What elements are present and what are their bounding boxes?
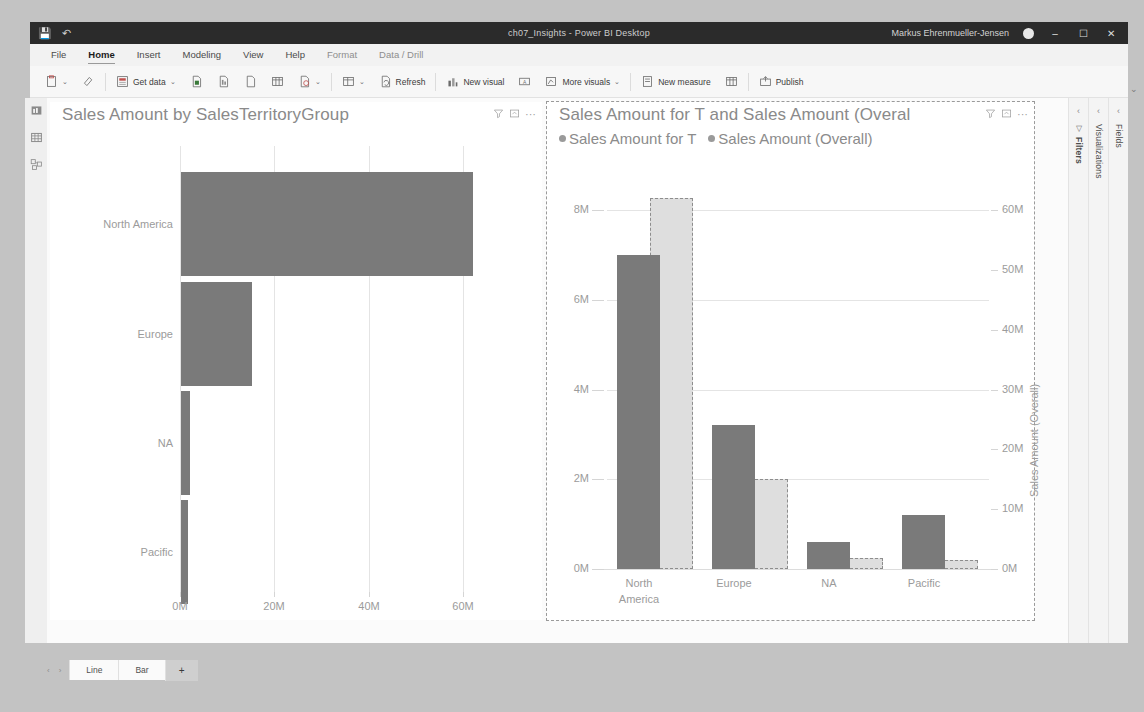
axis-tick	[991, 330, 998, 331]
chevron-down-icon[interactable]: ⌄	[614, 78, 620, 86]
axis-tick	[991, 569, 998, 570]
ribbon-tabs: File Home Insert Modeling View Help Form…	[30, 44, 1128, 66]
tab-view[interactable]: View	[232, 44, 274, 66]
filter-icon: ▽	[1076, 124, 1082, 133]
get-data-button[interactable]: Get data ⌄	[109, 69, 183, 95]
x-axis-line	[603, 569, 993, 570]
bar-north-america[interactable]	[181, 172, 473, 276]
text-box-button[interactable]: A	[511, 69, 538, 95]
recent-sources-button[interactable]: ⌄	[291, 69, 328, 95]
visual-sales-amount-combo[interactable]: Sales Amount for T and Sales Amount (Ove…	[547, 102, 1034, 620]
report-view-icon[interactable]	[30, 104, 43, 117]
axis-tick	[180, 592, 181, 597]
bar-territory-north-america[interactable]	[617, 255, 660, 569]
x-tick-label: 40M	[349, 600, 389, 612]
visual-sales-amount-by-territory[interactable]: Sales Amount by SalesTerritoryGroup ···	[50, 102, 542, 620]
ribbon-divider	[748, 73, 749, 91]
format-painter-button[interactable]	[75, 69, 102, 95]
right-axis-tick-label: 40M	[1002, 323, 1023, 335]
panel-visualizations[interactable]: ‹ Visualizations	[1088, 98, 1108, 643]
panel-fields[interactable]: ‹ Fields	[1108, 98, 1128, 643]
new-visual-icon	[446, 75, 459, 88]
page-tab-line[interactable]: Line	[69, 660, 118, 680]
excel-source-button[interactable]	[183, 69, 210, 95]
tab-help[interactable]: Help	[274, 44, 316, 66]
left-axis-tick-label: 2M	[549, 472, 589, 484]
dataset-icon	[217, 75, 230, 88]
panel-filters[interactable]: ‹ ▽ Filters	[1068, 98, 1088, 643]
category-label: North	[599, 577, 679, 589]
right-axis-tick-label: 0M	[1002, 562, 1017, 574]
axis-tick	[991, 270, 998, 271]
bar-na[interactable]	[181, 391, 190, 495]
excel-icon	[190, 75, 203, 88]
left-axis-tick-label: 6M	[549, 293, 589, 305]
refresh-button[interactable]: Refresh	[372, 69, 433, 95]
bar-territory-pacific[interactable]	[902, 515, 945, 569]
transform-data-button[interactable]: ⌄	[335, 69, 372, 95]
enter-data-button[interactable]	[264, 69, 291, 95]
tab-format[interactable]: Format	[316, 44, 368, 66]
prev-page-button[interactable]: ‹	[47, 666, 50, 675]
bar-territory-europe[interactable]	[712, 425, 755, 569]
category-label: Pacific	[60, 546, 173, 558]
right-sidebar: ‹ ▽ Filters ‹ Visualizations ‹ Fields	[1068, 98, 1128, 643]
category-label: NA	[789, 577, 869, 589]
sql-server-button[interactable]	[237, 69, 264, 95]
page-tab-bar: ‹ › Line Bar +	[25, 655, 1128, 685]
left-axis-tick-label: 0M	[549, 562, 589, 574]
file-icon	[244, 75, 257, 88]
paste-button[interactable]: ⌄	[38, 69, 75, 95]
axis-tick	[991, 210, 998, 211]
chevron-down-icon[interactable]: ⌄	[170, 78, 176, 86]
right-axis-tick-label: 30M	[1002, 383, 1023, 395]
chevron-left-icon[interactable]: ‹	[1117, 106, 1120, 116]
x-tick-label: 20M	[254, 600, 294, 612]
add-page-button[interactable]: +	[165, 660, 198, 681]
new-visual-button[interactable]: New visual	[439, 69, 511, 95]
tab-insert[interactable]: Insert	[126, 44, 172, 66]
new-measure-icon	[641, 75, 654, 88]
chevron-down-icon[interactable]: ⌄	[62, 78, 68, 86]
new-visual-label: New visual	[463, 77, 504, 87]
new-measure-button[interactable]: New measure	[634, 69, 717, 95]
axis-tick	[592, 569, 604, 570]
tab-home[interactable]: Home	[77, 44, 125, 66]
bar-europe[interactable]	[181, 282, 252, 386]
right-axis-tick-label: 50M	[1002, 263, 1023, 275]
chevron-down-icon[interactable]: ⌄	[315, 78, 321, 86]
svg-text:A: A	[523, 80, 527, 85]
axis-tick	[592, 300, 604, 301]
ribbon-toolbar: ⌄ Get data ⌄	[30, 66, 1128, 98]
powerbi-datasets-button[interactable]	[210, 69, 237, 95]
panel-label-visualizations: Visualizations	[1094, 124, 1104, 179]
chevron-down-icon[interactable]: ⌄	[359, 78, 365, 86]
axis-tick	[592, 390, 604, 391]
bar-pacific[interactable]	[181, 500, 188, 604]
new-column-button[interactable]	[718, 69, 745, 95]
data-view-icon[interactable]	[30, 131, 43, 144]
page-tab-bar-page[interactable]: Bar	[118, 660, 164, 680]
tab-modeling[interactable]: Modeling	[171, 44, 232, 66]
page-navigation: ‹ ›	[47, 666, 69, 675]
model-view-icon[interactable]	[30, 158, 43, 171]
axis-tick	[592, 210, 604, 211]
publish-icon	[759, 75, 772, 88]
right-axis-tick-label: 10M	[1002, 502, 1023, 514]
category-label: NA	[60, 437, 173, 449]
more-visuals-button[interactable]: More visuals ⌄	[538, 69, 627, 95]
bar-territory-na[interactable]	[807, 542, 850, 569]
publish-button[interactable]: Publish	[752, 69, 811, 95]
recent-sources-icon	[298, 75, 311, 88]
refresh-icon	[379, 75, 392, 88]
chevron-left-icon[interactable]: ‹	[1077, 106, 1080, 116]
x-tick-label: 0M	[160, 600, 200, 612]
next-page-button[interactable]: ›	[59, 666, 62, 675]
powerbi-desktop-window: 💾 ↶ ch07_Insights - Power BI Desktop Mar…	[0, 0, 1144, 712]
chevron-left-icon[interactable]: ‹	[1097, 106, 1100, 116]
collapse-ribbon-icon[interactable]: ⌄	[1130, 84, 1138, 94]
tab-file[interactable]: File	[40, 44, 77, 66]
category-label: Europe	[694, 577, 774, 589]
transform-data-icon	[342, 75, 355, 88]
tab-data-drill[interactable]: Data / Drill	[368, 44, 434, 66]
